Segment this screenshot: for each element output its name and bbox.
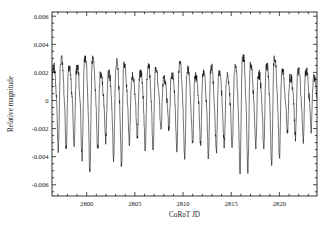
x-tick-label: 2805 [128, 200, 142, 207]
y-tick-label: -0.002 [31, 125, 48, 132]
x-tick-label: 2800 [80, 200, 94, 207]
x-tick-label: 2820 [273, 200, 287, 207]
y-tick-label: 0.006 [34, 13, 50, 20]
x-tick-label: 2810 [176, 200, 190, 207]
y-tick-label: 0.002 [34, 69, 49, 76]
y-tick-label: -0.006 [31, 181, 49, 188]
y-tick-label: -0.004 [31, 153, 49, 160]
y-tick-label: 0.004 [34, 41, 50, 48]
x-axis-title: CoRoT JD [169, 211, 200, 219]
x-tick-label: 2815 [225, 200, 239, 207]
y-axis-title: Relative magnitude [7, 76, 15, 132]
figure-container: 280028052810281528200.0060.0040.0020-0.0… [0, 0, 333, 236]
light-curve-chart: 280028052810281528200.0060.0040.0020-0.0… [0, 0, 333, 236]
